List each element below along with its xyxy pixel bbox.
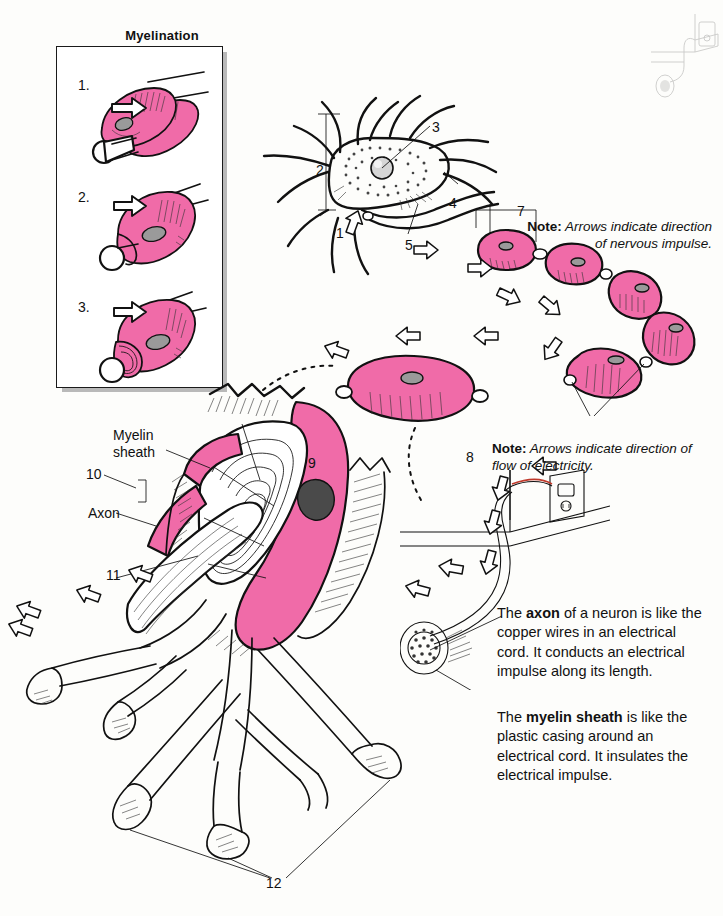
note-nervous-impulse: Note: Arrows indicate direction of nervo… (516, 218, 712, 253)
blurb-axon-seg0: The (497, 605, 526, 621)
blurb-axon-term: axon (526, 605, 560, 621)
blurb-myelin-term: myelin sheath (526, 709, 623, 725)
note-electricity: Note: Arrows indicate direction of flow … (492, 440, 718, 475)
blurb-axon-analogy: The axon of a neuron is like the copper … (497, 604, 711, 681)
blurb-myelin-seg0: The (497, 709, 526, 725)
note-electricity-prefix: Note: (492, 441, 527, 456)
note-nervous-impulse-prefix: Note: (527, 219, 562, 234)
diagram-canvas: Myelination 1. 2. 3. (0, 0, 723, 916)
blurb-myelin-analogy: The myelin sheath is like the plastic ca… (497, 708, 703, 785)
note-nervous-impulse-body: Arrows indicate direction of nervous imp… (565, 219, 712, 251)
